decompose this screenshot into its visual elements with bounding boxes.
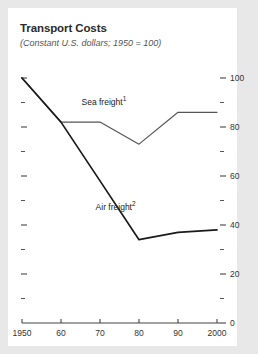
annotation-footnote-marker: 2 bbox=[132, 200, 136, 207]
y-axis-label: 40 bbox=[230, 220, 239, 230]
x-axis-label: 1950 bbox=[13, 328, 32, 338]
annotation-footnote-marker: 1 bbox=[123, 95, 127, 102]
chart-card: Transport Costs (Constant U.S. dollars; … bbox=[8, 8, 237, 346]
annotation-text: Air freight bbox=[96, 202, 132, 212]
x-axis-label: 80 bbox=[134, 328, 143, 338]
annotation-text: Sea freight bbox=[82, 97, 123, 107]
y-axis-label: 80 bbox=[230, 122, 239, 132]
x-axis-ticks bbox=[22, 319, 217, 323]
x-axis-label: 70 bbox=[95, 328, 104, 338]
x-axis-label: 90 bbox=[173, 328, 182, 338]
y-axis-label: 0 bbox=[230, 318, 235, 328]
y-axis-ticks-right bbox=[220, 78, 226, 323]
series-annotation-sea-freight: Sea freight1 bbox=[82, 97, 127, 107]
x-axis-label: 60 bbox=[56, 328, 65, 338]
y-axis-ticks-left bbox=[21, 78, 27, 299]
y-axis-label: 20 bbox=[230, 269, 239, 279]
y-axis-label: 100 bbox=[230, 73, 244, 83]
line-chart-plot bbox=[8, 8, 237, 346]
x-axis-label: 2000 bbox=[208, 328, 227, 338]
y-axis-label: 60 bbox=[230, 171, 239, 181]
series-annotation-air-freight: Air freight2 bbox=[96, 202, 136, 212]
